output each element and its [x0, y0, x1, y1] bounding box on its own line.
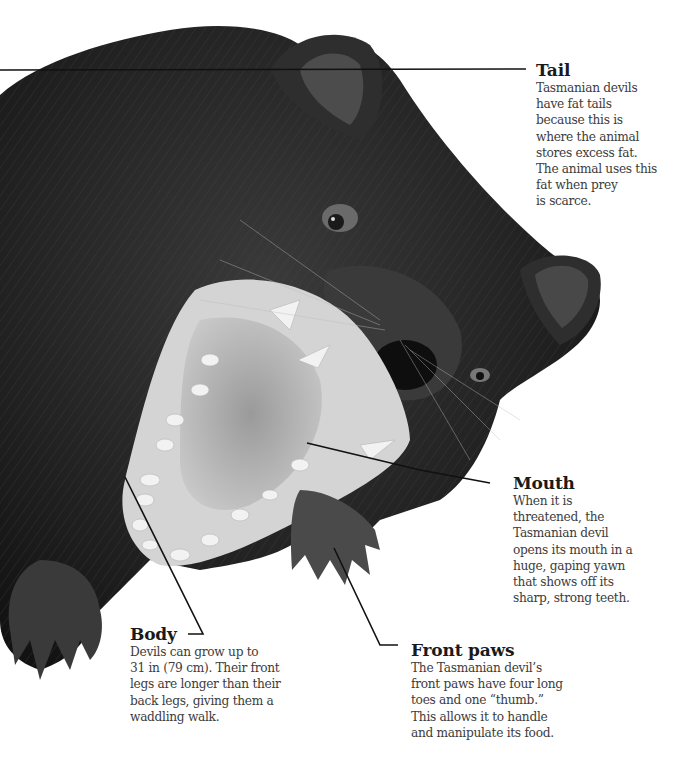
callout-tail-title: Tail — [536, 60, 675, 80]
callout-mouth-title: Mouth — [513, 473, 673, 493]
callout-body: Body Devils can grow up to 31 in (79 cm)… — [130, 624, 340, 725]
callout-body-title: Body — [130, 624, 340, 644]
tail-leader-line — [0, 69, 526, 70]
callout-mouth-text: When it is threatened, the Tasmanian dev… — [513, 493, 673, 606]
callout-tail: Tail Tasmanian devils have fat tails bec… — [536, 60, 675, 210]
callout-front-paws: Front paws The Tasmanian devil’s front p… — [411, 640, 631, 741]
callout-front-paws-text: The Tasmanian devil’s front paws have fo… — [411, 660, 631, 741]
callout-front-paws-title: Front paws — [411, 640, 631, 660]
callout-tail-text: Tasmanian devils have fat tails because … — [536, 80, 675, 210]
callout-body-text: Devils can grow up to 31 in (79 cm). The… — [130, 644, 340, 725]
callout-mouth: Mouth When it is threatened, the Tasmani… — [513, 473, 673, 606]
